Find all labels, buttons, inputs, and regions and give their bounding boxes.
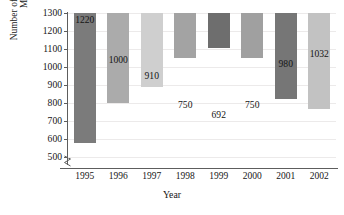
bar[interactable] — [308, 13, 330, 109]
x-axis-tick-label: 1996 — [100, 172, 136, 182]
gridline — [68, 121, 336, 122]
gridline — [68, 139, 336, 140]
y-axis-tick-label: 500 — [34, 152, 62, 162]
y-axis-tick-mark — [64, 85, 68, 86]
bar[interactable] — [174, 13, 196, 58]
x-axis-tick-label: 1999 — [201, 172, 237, 182]
x-axis-tick-label: 2001 — [268, 172, 304, 182]
y-axis-title-line-1: Number of Gang-Related — [9, 0, 19, 40]
y-axis-tick-label: 800 — [34, 98, 62, 108]
bar-value-label: 750 — [232, 100, 272, 110]
bar[interactable] — [74, 13, 96, 143]
x-axis-line — [60, 168, 338, 169]
bar-value-label: 910 — [132, 71, 172, 81]
y-axis-tick-mark — [64, 139, 68, 140]
y-axis-title: Number of Gang-Related Murders — [2, 0, 36, 56]
y-axis-tick-label: 700 — [34, 116, 62, 126]
x-axis-tick-label: 1998 — [167, 172, 203, 182]
bar[interactable] — [241, 13, 263, 58]
bar-value-label: 1032 — [299, 49, 339, 59]
y-axis-tick-label: 600 — [34, 134, 62, 144]
y-axis-title-line-2: Murders — [19, 0, 29, 8]
gridline — [68, 157, 336, 158]
bar-chart: Number of Gang-Related Murders 130012001… — [0, 0, 344, 215]
y-axis-tick-label: 1300 — [34, 8, 62, 18]
bar-value-label: 980 — [266, 59, 306, 69]
x-axis-tick-label: 2002 — [301, 172, 337, 182]
y-axis-tick-label: 900 — [34, 80, 62, 90]
y-axis-tick-mark — [64, 13, 68, 14]
y-axis-tick-label: 1000 — [34, 62, 62, 72]
y-axis-tick-mark — [64, 121, 68, 122]
bar-value-label: 1220 — [65, 15, 105, 25]
x-axis-tick-label: 1995 — [67, 172, 103, 182]
y-axis-tick-mark — [64, 31, 68, 32]
bar-value-label: 1000 — [98, 55, 138, 65]
x-axis-tick-label: 1997 — [134, 172, 170, 182]
y-axis-tick-mark — [64, 49, 68, 50]
y-axis-tick-label: 1200 — [34, 26, 62, 36]
bar[interactable] — [208, 13, 230, 48]
y-axis-tick-label: 1100 — [34, 44, 62, 54]
x-axis-title: Year — [0, 189, 344, 200]
plot-area — [68, 13, 336, 157]
y-axis-tick-mark — [64, 103, 68, 104]
y-axis-tick-labels: 1300120011001000900800700600500 — [32, 0, 62, 180]
bar[interactable] — [275, 13, 297, 99]
bar-value-label: 692 — [199, 110, 239, 120]
y-axis-tick-mark — [64, 157, 68, 158]
x-axis-tick-label: 2000 — [234, 172, 270, 182]
y-axis-tick-mark — [64, 67, 68, 68]
bar-value-label: 750 — [165, 100, 205, 110]
